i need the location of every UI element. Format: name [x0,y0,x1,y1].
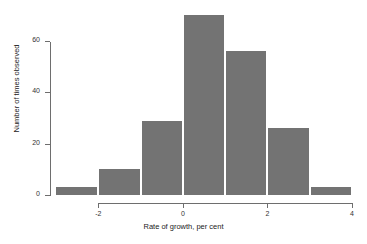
x-axis-tick-label: 4 [340,210,364,217]
y-axis-tick [45,92,50,93]
y-axis-tick-label: 40 [18,87,40,94]
histogram-bar [141,121,183,196]
histogram-bar [98,169,140,195]
y-axis-title: Number of times observed [12,24,21,154]
y-axis-line [50,42,51,196]
histogram-figure: 0204060 Number of times observed -2024 R… [0,0,367,244]
y-axis-tick [45,195,50,196]
x-axis-line [98,203,352,204]
y-axis-tick-label: 20 [18,139,40,146]
y-axis-tick [45,41,50,42]
x-axis-tick [352,203,353,208]
x-axis-tick-label: 0 [171,210,195,217]
y-axis-tick [45,144,50,145]
x-axis-tick-label: -2 [86,210,110,217]
plot-area [56,10,352,195]
histogram-bar [183,15,225,195]
y-axis-tick-label: 0 [18,190,40,197]
y-axis-tick-label: 60 [18,36,40,43]
histogram-bar [225,51,267,195]
x-axis-tick-label: 2 [255,210,279,217]
histogram-bar [56,187,98,195]
x-axis-tick [98,203,99,208]
x-axis-title: Rate of growth, per cent [0,222,367,231]
histogram-bar [267,128,309,195]
x-axis-tick [183,203,184,208]
histogram-bar [310,187,352,195]
x-axis-tick [267,203,268,208]
